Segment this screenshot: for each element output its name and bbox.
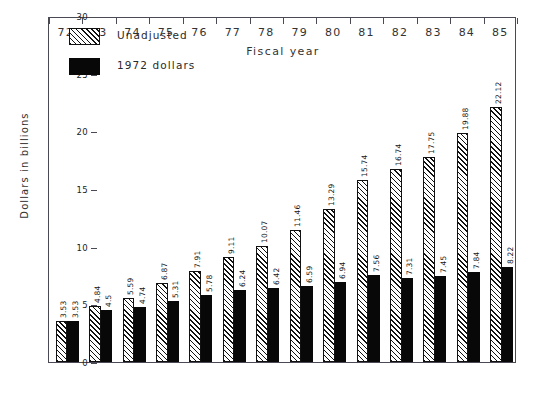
bar-value-label: 11.46 <box>294 204 302 226</box>
bar-unadjusted-76: 7.91 <box>189 271 201 362</box>
bar-unadjusted-80: 13.29 <box>323 209 335 362</box>
bar-value-label: 5.31 <box>172 280 180 298</box>
x-tick-mark <box>183 18 184 24</box>
bar-adjusted-79: 6.59 <box>301 286 313 362</box>
bar-value-label: 7.91 <box>194 250 202 268</box>
x-tick-label-80: 80 <box>325 26 341 39</box>
bar-chart: Dollars in billions 051015202530 3.533.5… <box>0 0 542 404</box>
bar-adjusted-77: 6.24 <box>234 290 246 362</box>
bar-adjusted-82: 7.31 <box>402 278 414 362</box>
y-axis-title: Dollars in billions <box>19 66 30 266</box>
bar-value-label: 16.74 <box>395 143 403 165</box>
bar-value-label: 6.59 <box>306 266 314 284</box>
bar-value-label: 3.53 <box>60 301 68 319</box>
bar-adjusted-81: 7.56 <box>368 275 380 362</box>
y-tick-mark <box>91 17 97 18</box>
legend-label-unadjusted: Unadjusted <box>117 29 188 41</box>
bar-value-label: 7.84 <box>473 251 481 269</box>
bar-value-label: 15.74 <box>361 155 369 177</box>
bar-adjusted-76: 5.78 <box>201 295 213 362</box>
x-tick-label-76: 76 <box>191 26 207 39</box>
bar-value-label: 5.78 <box>206 275 214 293</box>
x-tick-mark <box>49 18 50 24</box>
bar-value-label: 8.22 <box>507 247 515 265</box>
bar-value-label: 13.29 <box>328 183 336 205</box>
bar-value-label: 22.12 <box>495 81 503 103</box>
bar-value-label: 4.5 <box>105 295 113 308</box>
bar-value-label: 10.07 <box>261 220 269 242</box>
x-tick-mark <box>216 18 217 24</box>
bar-value-label: 6.42 <box>273 267 281 285</box>
bar-unadjusted-81: 15.74 <box>357 180 369 362</box>
x-tick-label-81: 81 <box>358 26 374 39</box>
x-tick-label-77: 77 <box>225 26 241 39</box>
bar-value-label: 7.56 <box>373 254 381 272</box>
y-tick-mark <box>91 190 97 191</box>
x-tick-mark <box>350 18 351 24</box>
y-tick-label: 5 <box>82 300 88 311</box>
bar-unadjusted-73: 4.84 <box>89 306 101 362</box>
x-tick-label-83: 83 <box>425 26 441 39</box>
y-tick-label: 0 <box>82 358 88 369</box>
bar-value-label: 6.24 <box>239 270 247 288</box>
bar-adjusted-80: 6.94 <box>335 282 347 362</box>
x-tick-mark <box>283 18 284 24</box>
bar-value-label: 7.31 <box>406 257 414 275</box>
x-tick-mark <box>517 18 518 24</box>
x-tick-label-82: 82 <box>392 26 408 39</box>
y-tick-label: 10 <box>77 243 88 254</box>
y-tick-mark <box>91 248 97 249</box>
x-tick-mark <box>484 18 485 24</box>
x-tick-mark <box>116 18 117 24</box>
bar-unadjusted-78: 10.07 <box>256 246 268 362</box>
x-tick-mark <box>82 18 83 24</box>
x-tick-label-78: 78 <box>258 26 274 39</box>
bar-unadjusted-82: 16.74 <box>390 169 402 362</box>
bar-unadjusted-83: 17.75 <box>423 157 435 362</box>
bar-unadjusted-75: 6.87 <box>156 283 168 362</box>
y-tick-mark <box>91 363 97 364</box>
bar-value-label: 4.84 <box>94 286 102 304</box>
bar-value-label: 6.87 <box>161 262 169 280</box>
bar-adjusted-72: 3.53 <box>67 321 79 362</box>
x-tick-mark <box>383 18 384 24</box>
bar-unadjusted-79: 11.46 <box>290 230 302 362</box>
bar-adjusted-74: 4.74 <box>134 307 146 362</box>
x-tick-mark <box>149 18 150 24</box>
bar-adjusted-83: 7.45 <box>435 276 447 362</box>
x-tick-label-79: 79 <box>292 26 308 39</box>
x-tick-label-84: 84 <box>459 26 475 39</box>
bar-adjusted-73: 4.5 <box>101 310 113 362</box>
bar-unadjusted-72: 3.53 <box>56 321 68 362</box>
bar-unadjusted-84: 19.88 <box>457 133 469 362</box>
bar-adjusted-84: 7.84 <box>468 272 480 362</box>
x-tick-mark <box>450 18 451 24</box>
bar-unadjusted-77: 9.11 <box>223 257 235 362</box>
legend-label-1972-dollars: 1972 dollars <box>117 59 195 71</box>
plot-area: 051015202530 3.533.534.844.55.594.746.87… <box>48 17 516 363</box>
y-tick-label: 20 <box>77 127 88 138</box>
bar-value-label: 6.94 <box>339 261 347 279</box>
bar-value-label: 4.74 <box>139 287 147 305</box>
y-tick-label: 15 <box>77 185 88 196</box>
bar-adjusted-78: 6.42 <box>268 288 280 362</box>
legend-swatch-hatched-icon <box>69 28 100 45</box>
x-tick-mark <box>316 18 317 24</box>
bar-value-label: 19.88 <box>462 107 470 129</box>
x-axis-title: Fiscal year <box>49 45 517 58</box>
y-tick-mark <box>91 132 97 133</box>
x-tick-label-85: 85 <box>492 26 508 39</box>
x-tick-mark <box>417 18 418 24</box>
bar-unadjusted-85: 22.12 <box>490 107 502 362</box>
legend-swatch-solid-icon <box>69 58 100 75</box>
bar-adjusted-85: 8.22 <box>502 267 514 362</box>
bar-unadjusted-74: 5.59 <box>123 298 135 362</box>
bar-adjusted-75: 5.31 <box>168 301 180 362</box>
bar-value-label: 3.53 <box>72 301 80 319</box>
x-tick-mark <box>250 18 251 24</box>
bar-value-label: 5.59 <box>127 277 135 295</box>
bar-value-label: 7.45 <box>440 256 448 274</box>
bar-value-label: 17.75 <box>428 132 436 154</box>
bar-value-label: 9.11 <box>228 236 236 254</box>
